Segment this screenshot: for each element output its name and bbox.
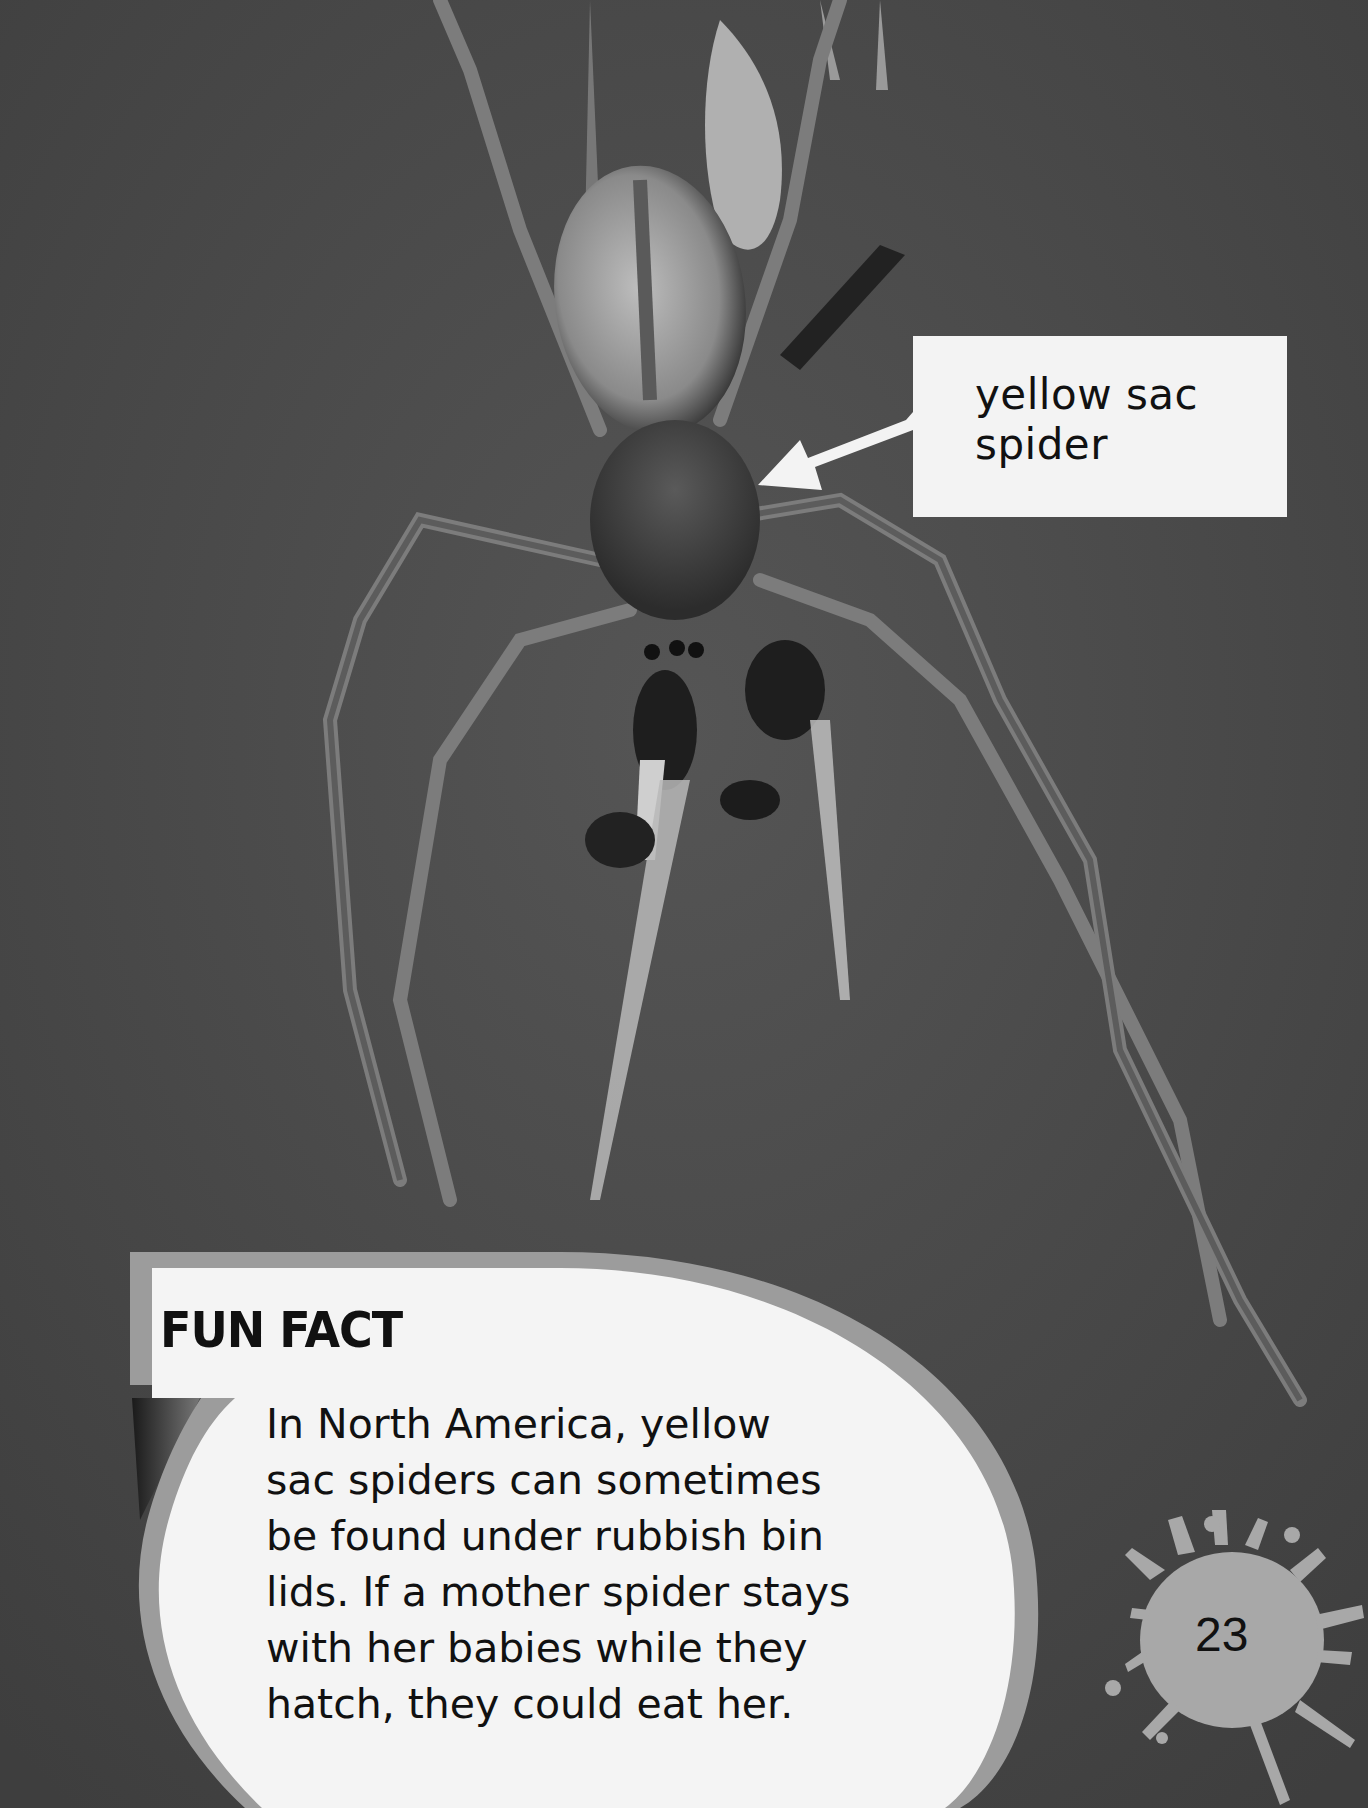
paint-splat-icon bbox=[0, 0, 1368, 1808]
page-number: 23 bbox=[1195, 1607, 1248, 1662]
